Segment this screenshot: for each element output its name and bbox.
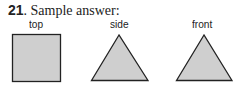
- views-drawing: [0, 0, 235, 88]
- top-view-square: [13, 35, 61, 82]
- side-view-triangle: [92, 35, 149, 81]
- front-view-triangle: [177, 35, 233, 81]
